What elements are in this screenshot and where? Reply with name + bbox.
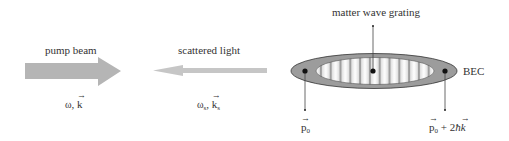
pump-beam-symbol: ω, k (65, 99, 83, 110)
momentum-p0-label: p0 (301, 122, 310, 135)
omega-symbol: ω (65, 99, 72, 110)
wavevector-ks: k (212, 99, 218, 110)
pump-beam-arrow (25, 57, 121, 86)
scattered-light-label: scattered light (178, 45, 240, 56)
pump-beam-label: pump beam (45, 45, 97, 56)
wavevector-k: k (77, 99, 83, 110)
momentum-p: p (429, 122, 435, 133)
momentum-p: p (301, 122, 307, 133)
scattered-light-symbol: ωs, ks (197, 99, 220, 112)
momentum-p0-plus-2hk-label: p0 + 2ħk (429, 122, 466, 135)
matter-wave-grating-label: matter wave grating (332, 7, 420, 18)
bec-label: BEC (463, 66, 484, 77)
wavevector-k: k (461, 122, 466, 133)
omega-s-symbol: ω (197, 99, 204, 110)
scattered-light-arrow (153, 65, 267, 76)
